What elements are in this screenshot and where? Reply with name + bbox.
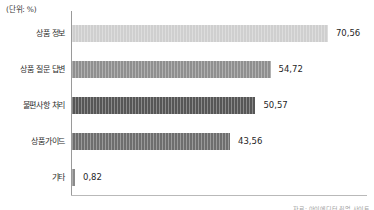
bar-value-label: 43,56 [238,137,262,146]
chart-row: 불편사항 처리 50,57 [0,88,374,123]
category-label: 불편사항 처리 [0,102,65,110]
bar-value-label: 54,72 [279,65,303,74]
source-note: 자료: 아이에디터 취업 사이트 [293,204,370,210]
chart-row: 상품 질문 답변 54,72 [0,52,374,87]
category-label: 상품 정보 [0,30,65,38]
bar-value-label: 0,82 [83,173,102,182]
bar[interactable] [72,97,255,114]
category-label: 상품 질문 답변 [0,66,65,74]
unit-note: (단위: %) [6,3,37,14]
bar-track: 54,72 [72,52,303,87]
bar[interactable] [72,169,75,186]
category-label: 상품가이드 [0,138,65,146]
bar-track: 70,56 [72,16,360,51]
bar-track: 50,57 [72,88,288,123]
bar[interactable] [72,133,230,150]
bar-track: 0,82 [72,160,102,195]
bar-chart-figure: (단위: %) 상품 정보 70,56 상품 질문 답변 54,72 불편사항 … [0,0,374,210]
bar-track: 43,56 [72,124,262,159]
category-label: 기타 [0,174,65,182]
bar-value-label: 70,56 [336,29,360,38]
chart-row: 기타 0,82 [0,160,374,195]
x-axis-line [71,195,367,196]
chart-row: 상품 정보 70,56 [0,16,374,51]
bar[interactable] [72,25,328,42]
chart-row: 상품가이드 43,56 [0,124,374,159]
bar[interactable] [72,61,271,78]
bar-value-label: 50,57 [263,101,287,110]
